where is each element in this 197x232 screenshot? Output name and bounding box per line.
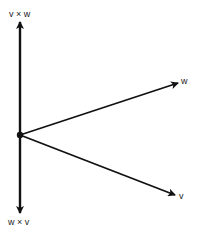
label-w: w bbox=[180, 76, 188, 86]
label-v: v bbox=[179, 191, 184, 201]
label-w-cross-v: w × v bbox=[7, 217, 30, 227]
vector-v bbox=[20, 135, 175, 195]
vector-w bbox=[20, 83, 178, 135]
origin-point bbox=[17, 132, 23, 138]
cross-product-diagram: v × w w × v w v bbox=[0, 0, 197, 232]
label-v-cross-w: v × w bbox=[9, 9, 31, 19]
